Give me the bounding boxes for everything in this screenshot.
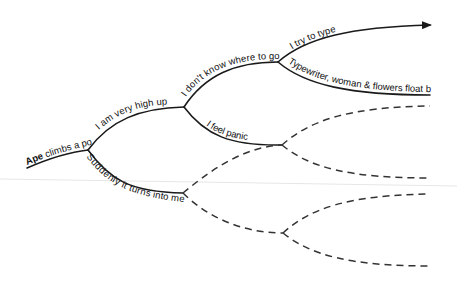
dashed-branch-lower-up (283, 194, 430, 233)
scan-artifact-line (0, 179, 457, 186)
label-turns-into-me: Suddenly it turns into me (85, 151, 186, 204)
dashed-branch-turn-down (183, 193, 283, 233)
dashed-branch-panic-down (282, 145, 430, 178)
branching-story-diagram: Ape climbs a pole I am very high up Sudd… (0, 0, 457, 284)
root-label-rest: climbs a pole (0, 0, 93, 160)
label-dont-know: I don't know where to go (179, 50, 280, 98)
root-label: Ape climbs a pole (0, 0, 93, 167)
dashed-branch-lower-down (283, 233, 430, 266)
label-high-up: I am very high up (93, 95, 168, 131)
dashed-branch-turn-up (183, 145, 282, 193)
dashed-branch-panic-up (282, 106, 430, 145)
label-typewriter: Typewriter, woman & flowers float by (0, 0, 431, 94)
